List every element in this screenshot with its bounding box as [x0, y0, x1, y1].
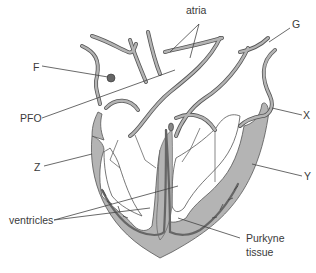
- label-X: X: [303, 109, 310, 121]
- label-purkyne-line1: Purkyne: [246, 232, 285, 244]
- label-ventricles: ventricles: [9, 214, 53, 226]
- leader-Y: [252, 164, 302, 176]
- label-Z: Z: [34, 161, 40, 173]
- leader-G: [269, 28, 290, 42]
- leader-ventricles-2: [54, 208, 150, 220]
- leader-X: [272, 108, 302, 115]
- label-PFO: PFO: [20, 112, 42, 124]
- label-F: F: [33, 61, 39, 73]
- label-atria: atria: [186, 4, 206, 16]
- leader-atria-2: [190, 24, 199, 58]
- leader-Z: [44, 154, 92, 166]
- label-Y: Y: [304, 170, 311, 182]
- fossa-dot: [107, 74, 115, 82]
- label-G: G: [292, 18, 300, 30]
- heart-diagram: atria G F PFO X Z Y ventricles Purkyne t…: [0, 0, 316, 273]
- label-purkyne-line2: tissue: [246, 246, 273, 258]
